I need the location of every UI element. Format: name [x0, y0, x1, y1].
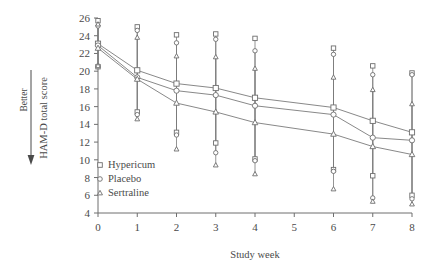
data-point-square: [253, 36, 257, 40]
data-point-triangle: [253, 171, 258, 175]
x-axis-title: Study week: [230, 249, 280, 260]
legend-item-placebo[interactable]: Placebo: [98, 173, 142, 184]
x-tick-label: 3: [213, 221, 219, 233]
x-tick-label: 8: [409, 221, 415, 233]
data-point-square: [135, 68, 140, 73]
data-point-circle: [331, 112, 336, 117]
data-point-circle: [331, 169, 335, 173]
data-point-square: [371, 174, 375, 178]
chart-legend: HypericumPlaceboSertraline: [98, 159, 156, 198]
x-tick-label: 0: [95, 221, 101, 233]
data-point-circle: [174, 133, 178, 137]
y-tick-label: 26: [79, 12, 91, 24]
data-point-square: [214, 32, 218, 36]
data-point-square: [409, 130, 414, 135]
legend-label: Sertraline: [108, 187, 149, 198]
y-tick-label: 14: [79, 118, 91, 130]
data-point-triangle: [213, 54, 218, 58]
data-point-circle: [174, 41, 178, 45]
data-point-triangle: [174, 100, 180, 105]
x-tick-label: 6: [331, 221, 337, 233]
data-point-square: [174, 81, 179, 86]
y-tick-label: 20: [79, 65, 91, 77]
data-point-triangle: [135, 117, 140, 121]
data-point-circle: [410, 197, 414, 201]
data-point-triangle: [410, 101, 415, 105]
y-tick-label: 22: [79, 47, 90, 59]
data-point-triangle: [331, 75, 336, 79]
y-tick-label: 8: [85, 172, 91, 184]
data-point-triangle: [331, 187, 336, 191]
data-point-circle: [214, 151, 218, 155]
data-point-square: [370, 118, 375, 123]
y-tick-label: 16: [79, 101, 91, 113]
y-axis-title: HAM-D total score: [38, 77, 49, 159]
data-point-circle: [213, 93, 218, 98]
y-tick-label: 18: [79, 83, 91, 95]
y-tick-label: 12: [79, 136, 90, 148]
data-point-circle: [135, 28, 139, 32]
y-tick-label: 6: [85, 189, 91, 201]
data-point-square: [252, 95, 257, 100]
data-point-square: [213, 85, 218, 90]
data-point-triangle: [213, 163, 218, 167]
data-point-circle: [409, 138, 414, 143]
data-point-square: [371, 64, 375, 68]
ham-d-line-chart: 468101214161820222426 012345678 Study we…: [0, 0, 431, 271]
data-point-square: [98, 163, 103, 168]
data-point-circle: [370, 135, 375, 140]
data-point-triangle: [253, 66, 258, 70]
data-series-layer: [95, 18, 415, 205]
better-arrow-head: [28, 155, 35, 165]
data-point-circle: [214, 37, 218, 41]
data-point-triangle: [174, 147, 179, 151]
data-point-circle: [410, 73, 414, 77]
data-point-circle: [371, 73, 375, 77]
data-point-circle: [174, 88, 179, 93]
legend-item-sertraline[interactable]: Sertraline: [98, 187, 150, 198]
y-tick-label: 4: [85, 207, 91, 219]
data-point-square: [331, 105, 336, 110]
y-tick-label: 10: [79, 154, 91, 166]
x-tick-label: 7: [370, 221, 376, 233]
data-point-circle: [252, 103, 257, 108]
x-tick-label: 2: [174, 221, 180, 233]
data-point-circle: [331, 52, 335, 56]
data-point-triangle: [135, 35, 140, 39]
legend-label: Hypericum: [108, 159, 155, 170]
data-point-square: [331, 46, 335, 50]
data-point-circle: [98, 177, 103, 182]
data-point-triangle: [174, 54, 179, 58]
data-point-square: [174, 33, 178, 37]
data-point-triangle: [370, 87, 375, 91]
better-label: Better: [19, 88, 29, 112]
y-tick-label: 24: [79, 30, 91, 42]
legend-item-hypericum[interactable]: Hypericum: [98, 159, 156, 170]
data-point-circle: [253, 159, 257, 163]
x-axis-ticks: 012345678: [95, 213, 415, 233]
legend-label: Placebo: [108, 173, 141, 184]
data-point-triangle: [410, 202, 415, 206]
x-tick-label: 4: [252, 221, 258, 233]
chart-canvas: 468101214161820222426 012345678 Study we…: [0, 0, 431, 271]
data-point-square: [214, 141, 218, 145]
x-tick-label: 1: [135, 221, 141, 233]
x-tick-label: 5: [292, 221, 298, 233]
data-point-circle: [253, 49, 257, 53]
